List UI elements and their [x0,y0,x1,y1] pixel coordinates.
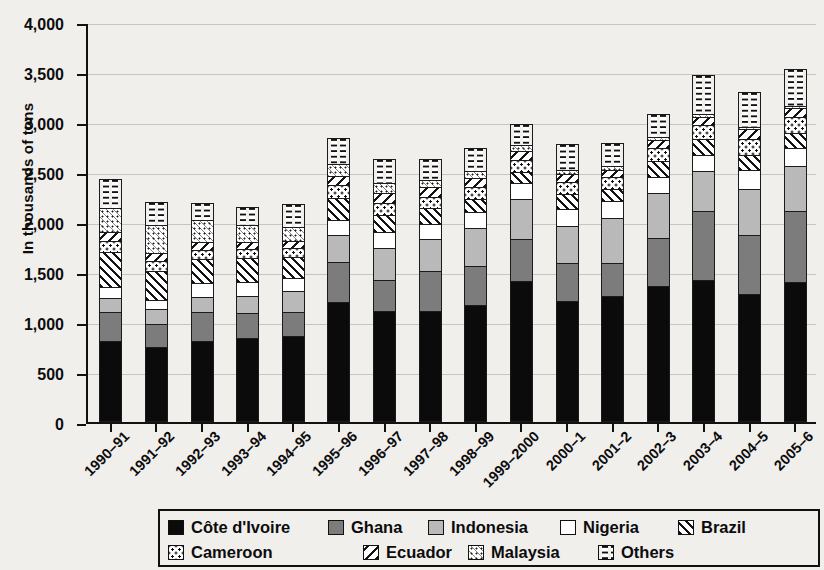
stacked-bar[interactable] [464,148,487,422]
legend-item-cameroon[interactable]: Cameroon [168,543,363,562]
bar-segment-indonesia [556,226,579,265]
bar-segment-brazil [145,271,168,301]
bar-segment-cameroon [464,187,487,201]
bar-segment-indonesia [784,166,807,212]
legend-item-nigeria[interactable]: Nigeria [560,518,678,537]
bar-segment-others [99,179,122,209]
stacked-bar[interactable] [419,159,442,422]
y-axis-tick: 1,500 [77,274,86,276]
bar-segment-cote [464,305,487,423]
bar-segment-others [738,92,761,128]
bar-segment-indonesia [510,199,533,240]
y-axis-tick: 3,000 [77,124,86,126]
bar-segment-ghana [692,211,715,281]
legend-item-brazil[interactable]: Brazil [678,518,768,537]
stacked-bar[interactable] [738,92,761,423]
bar-segment-ghana [738,235,761,295]
stacked-bar[interactable] [99,179,122,423]
chart-figure: In thousands of tons 05001,0001,5002,000… [0,0,824,570]
y-axis-tick-label: 500 [37,366,64,384]
bar-segment-others [784,69,807,107]
stacked-bar[interactable] [282,204,305,423]
bar-segment-malaysia [145,225,168,254]
legend-item-ghana[interactable]: Ghana [328,518,428,537]
bar-segment-nigeria [464,212,487,229]
bar-segment-ghana [145,324,168,349]
bar-segment-indonesia [282,291,305,314]
bar-segment-indonesia [692,171,715,212]
bar-segment-cote [784,282,807,423]
bar-segment-indonesia [419,239,442,272]
stacked-bar[interactable] [647,114,670,422]
x-axis-tick-label: 1997–98 [400,428,451,479]
bar-segment-nigeria [236,282,259,297]
bar-segment-ghana [647,238,670,288]
bar-segment-brazil [191,259,214,285]
legend-item-others[interactable]: Others [598,543,708,562]
x-axis-tick-label: 1995–96 [309,428,360,479]
x-axis-tick-label: 1996–97 [355,428,406,479]
stacked-bar[interactable] [601,143,624,422]
bar-segment-indonesia [373,248,396,281]
bar-segment-indonesia [236,296,259,314]
bar-segment-brazil [327,198,350,221]
bar-segment-brazil [464,199,487,213]
bar-segment-others [373,159,396,184]
legend-label: Ecuador [386,543,452,562]
bar-segment-ghana [784,211,807,283]
plot-area: 05001,0001,5002,0002,5003,0003,5004,000 [86,18,816,424]
legend-label: Cameroon [191,543,273,562]
bar-segment-brazil [236,258,259,283]
y-axis-tick: 3,500 [77,74,86,76]
bar-segment-others [327,138,350,165]
stacked-bar[interactable] [692,75,715,422]
bar-segment-cote [327,302,350,423]
bar-segment-others [236,207,259,227]
stacked-bar[interactable] [784,69,807,422]
bar-segment-others [191,203,214,222]
bar-segment-cote [738,294,761,423]
legend-swatch-others-icon [598,545,614,560]
legend-item-malaysia[interactable]: Malaysia [468,543,598,562]
bar-segment-brazil [373,215,396,234]
legend-item-cote[interactable]: Côte d'Ivoire [168,518,328,537]
x-axis-tick-label: 2001–2 [588,428,634,474]
bar-segment-cameroon [327,185,350,199]
bar-segment-nigeria [282,278,305,292]
legend-item-ecuador[interactable]: Ecuador [363,543,468,562]
x-axis-tick-label: 1990–91 [81,428,132,479]
bar-segment-cote [647,286,670,422]
bar-segment-brazil [99,252,122,289]
bar-segment-others [510,124,533,147]
bar-segment-others [282,204,305,228]
stacked-bar[interactable] [191,203,214,423]
bar-segment-ghana [99,312,122,342]
bar-segment-nigeria [373,232,396,249]
x-axis-tick-label: 1994–95 [263,428,314,479]
bar-segment-ghana [236,313,259,339]
bar-segment-cote [282,336,305,423]
bar-segment-nigeria [327,220,350,236]
stacked-bar[interactable] [510,124,533,423]
legend-row-1: Côte d'IvoireGhanaIndonesiaNigeriaBrazil [168,515,812,540]
bar-segment-ghana [327,262,350,303]
bar-segment-cote [419,311,442,422]
bar-segment-cameroon [784,117,807,134]
stacked-bar[interactable] [236,207,259,423]
stacked-bar[interactable] [373,159,396,423]
legend-label: Indonesia [451,518,528,537]
bar-segment-brazil [692,139,715,156]
stacked-bar[interactable] [327,138,350,422]
bar-segment-cote [510,281,533,422]
bar-segment-cote [373,311,396,422]
bar-segment-cameroon [738,139,761,156]
stacked-bar[interactable] [145,202,168,423]
bar-segment-malaysia [191,220,214,243]
legend-item-indonesia[interactable]: Indonesia [428,518,560,537]
stacked-bar[interactable] [556,144,579,422]
bar-segment-indonesia [464,228,487,267]
bar-segment-cameroon [692,125,715,141]
bar-segment-brazil [784,133,807,149]
gridline [88,24,816,25]
bar-segment-cote [191,341,214,423]
